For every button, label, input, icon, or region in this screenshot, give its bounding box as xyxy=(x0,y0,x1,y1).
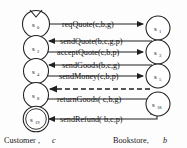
diagram-canvas: s 0 s 2 s 4 s 8 xyxy=(0,0,187,148)
label-reqquote: reqQuote(c,b,g) xyxy=(62,20,114,29)
label-acceptquote: acceptQuote(c,b,p) xyxy=(57,48,120,57)
protocol-state-diagram: s 0 s 2 s 4 s 8 xyxy=(0,0,187,148)
role-customer-var: c xyxy=(52,136,56,145)
state-s19-sub: 19 xyxy=(35,120,40,125)
label-returngoods: returnGoods( c,b,g) xyxy=(57,95,122,104)
label-sendgoods: sendGoods(b,c,g) xyxy=(62,61,120,70)
state-s3[interactable]: s 3 xyxy=(146,40,170,64)
state-s2[interactable]: s 2 xyxy=(24,36,49,61)
state-s0[interactable]: s 0 xyxy=(23,10,50,38)
role-bookstore-var: b xyxy=(163,136,167,145)
role-bookstore-name: Bookstore, xyxy=(113,136,149,145)
state-s4[interactable]: s 4 xyxy=(24,59,49,84)
state-s18-label: s xyxy=(152,101,155,109)
role-labels-layer: Customer , c Bookstore, b xyxy=(4,136,167,145)
state-s4-label: s xyxy=(32,68,35,76)
state-s1-label: s xyxy=(154,25,157,33)
state-s0-label: s xyxy=(32,21,35,29)
state-s5[interactable]: s 5 xyxy=(146,64,170,88)
state-s2-label: s xyxy=(32,45,35,53)
state-s1[interactable]: s 1 xyxy=(146,16,170,40)
state-s18-sub: 18 xyxy=(157,105,162,110)
label-sendrefund: sendRefund( b,c,p) xyxy=(60,115,123,124)
state-s18[interactable]: s 18 xyxy=(146,92,170,116)
label-sendmoney: sendMoney(c,b,p) xyxy=(59,72,119,81)
state-s8[interactable]: s 8 xyxy=(24,83,49,108)
state-s3-label: s xyxy=(154,49,157,57)
state-s19-label: s xyxy=(30,116,33,124)
label-sendquote: sendQuote(b,c,g,p) xyxy=(60,37,123,46)
state-s8-label: s xyxy=(32,92,35,100)
state-s5-label: s xyxy=(154,73,157,81)
role-customer-name: Customer , xyxy=(4,136,40,145)
state-s19[interactable]: s 19 xyxy=(23,106,49,132)
transition-labels-layer: reqQuote(c,b,g) sendQuote(b,c,g,p) accep… xyxy=(57,20,123,124)
